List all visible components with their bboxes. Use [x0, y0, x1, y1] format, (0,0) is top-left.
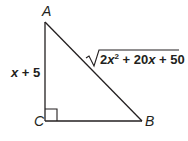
side-ab-radicand: 2x2 + 20x + 50	[100, 52, 185, 67]
side-ac-label: x + 5	[10, 65, 40, 80]
side-ac-constant: + 5	[18, 65, 40, 80]
radicand-middle-term: + 20	[119, 52, 148, 67]
radicand-coefficient: 2	[100, 52, 107, 67]
right-triangle-diagram: A C B x + 5 2x2 + 20x + 50	[0, 0, 188, 141]
vertex-label-b: B	[145, 113, 154, 129]
vertex-label-c: C	[34, 113, 45, 129]
side-ab-hypotenuse	[45, 22, 142, 121]
radicand-constant: + 50	[155, 52, 184, 67]
vertex-label-a: A	[41, 3, 51, 19]
side-ab-label: 2x2 + 20x + 50	[86, 50, 185, 67]
right-angle-marker-icon	[45, 109, 57, 121]
